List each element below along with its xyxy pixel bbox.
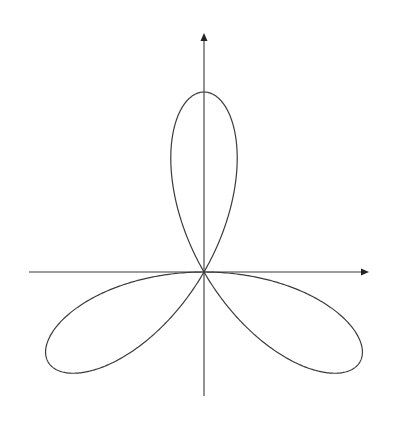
x-axis-arrow-icon: [361, 269, 369, 276]
y-axis-arrow-icon: [201, 33, 208, 41]
rose-curve-diagram: [0, 0, 393, 431]
